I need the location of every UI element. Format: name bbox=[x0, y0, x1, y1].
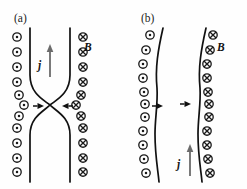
field-out-of-page-symbol bbox=[13, 33, 21, 41]
field-into-page-symbol bbox=[203, 74, 211, 82]
field-out-of-page-symbol bbox=[13, 139, 21, 147]
field-into-page-symbol bbox=[77, 112, 85, 120]
field-out-of-page-symbol bbox=[140, 88, 148, 96]
field-into-page-symbol bbox=[77, 91, 85, 99]
panel-a-label: (a) bbox=[14, 12, 27, 25]
field-out-of-page-symbol bbox=[15, 112, 23, 120]
field-into-page-symbol bbox=[79, 33, 87, 41]
field-into-page-symbol bbox=[79, 63, 87, 71]
field-into-page-symbol bbox=[79, 124, 87, 132]
panel-b-label: (b) bbox=[141, 12, 155, 25]
panel-a-current-arrow bbox=[47, 44, 54, 77]
field-out-of-page-symbol bbox=[139, 74, 147, 82]
field-into-page-symbol bbox=[79, 139, 87, 147]
field-into-page-symbol bbox=[79, 78, 87, 86]
field-into-page-symbol bbox=[206, 46, 214, 54]
field-into-page-symbol bbox=[204, 88, 212, 96]
inflow-arrow-right bbox=[180, 101, 191, 107]
inflow-arrow-right bbox=[33, 103, 44, 109]
field-out-of-page-symbol bbox=[15, 91, 23, 99]
field-into-page-symbol bbox=[79, 154, 87, 162]
field-into-page-symbol bbox=[206, 169, 214, 177]
field-out-of-page-symbol bbox=[13, 168, 21, 176]
field-into-page-symbol bbox=[72, 101, 80, 109]
panel-a: (a) j B bbox=[13, 12, 92, 182]
field-out-of-page-symbol bbox=[13, 63, 21, 71]
field-into-page-symbol bbox=[79, 168, 87, 176]
panel-b-current-arrow bbox=[187, 144, 194, 176]
panel-b: (b) j B bbox=[139, 12, 225, 182]
field-out-of-page-symbol bbox=[13, 124, 21, 132]
panel-a-current-label: j bbox=[36, 59, 42, 72]
field-into-page-symbol bbox=[203, 127, 211, 135]
field-out-of-page-symbol bbox=[141, 113, 149, 121]
panel-a-field-label: B bbox=[83, 41, 92, 53]
field-out-of-page-symbol bbox=[139, 60, 147, 68]
panel-b-perturbation-arrows bbox=[152, 101, 191, 109]
field-out-of-page-symbol bbox=[140, 155, 148, 163]
field-into-page-symbol bbox=[205, 100, 213, 108]
field-out-of-page-symbol bbox=[20, 101, 28, 109]
field-out-of-page-symbol bbox=[13, 78, 21, 86]
panel-b-out-of-page-symbols bbox=[139, 31, 154, 177]
panel-b-into-page-symbols bbox=[203, 31, 217, 177]
field-into-page-symbol bbox=[203, 141, 211, 149]
field-out-of-page-symbol bbox=[142, 169, 150, 177]
reconnection-figure: (a) j B (b) j B bbox=[0, 0, 247, 189]
panel-a-out-of-page-symbols bbox=[13, 33, 28, 176]
field-out-of-page-symbol bbox=[13, 154, 21, 162]
field-out-of-page-symbol bbox=[146, 31, 154, 39]
field-out-of-page-symbol bbox=[141, 100, 149, 108]
field-into-page-symbol bbox=[204, 155, 212, 163]
field-into-page-symbol bbox=[209, 31, 217, 39]
panel-b-field-label: B bbox=[216, 41, 225, 53]
panel-a-into-page-symbols bbox=[72, 33, 87, 176]
field-out-of-page-symbol bbox=[139, 127, 147, 135]
field-out-of-page-symbol bbox=[139, 141, 147, 149]
field-into-page-symbol bbox=[205, 113, 213, 121]
field-into-page-symbol bbox=[203, 60, 211, 68]
field-out-of-page-symbol bbox=[13, 48, 21, 56]
panel-b-current-label: j bbox=[175, 158, 181, 171]
inflow-arrow-right bbox=[152, 103, 163, 109]
field-out-of-page-symbol bbox=[142, 46, 150, 54]
